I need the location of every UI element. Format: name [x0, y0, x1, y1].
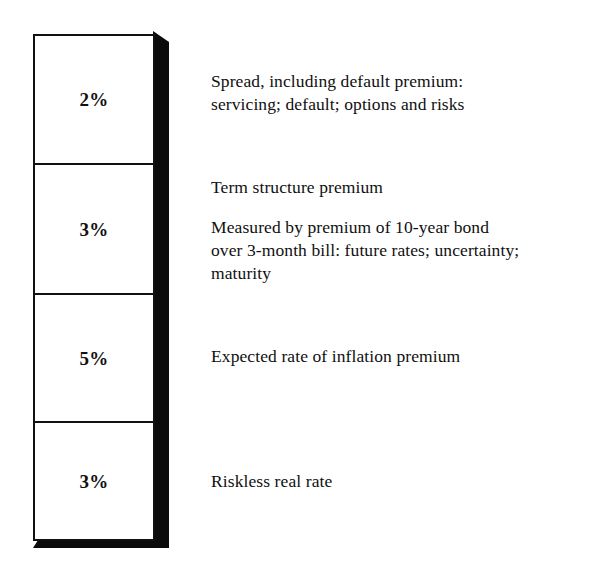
note-spread-line-2: servicing; default; options and risks [211, 93, 596, 116]
note-term-structure-heading: Term structure premium [211, 176, 596, 199]
note-inflation-heading: Expected rate of inflation premium [211, 345, 596, 368]
bond-yield-components-figure: 2% 3% 5% 3% Spread, including default pr… [0, 0, 604, 580]
bar-front-face: 2% 3% 5% 3% [33, 34, 155, 541]
annotation-column: Spread, including default premium: servi… [211, 0, 601, 580]
note-riskless-real-rate: Riskless real rate [211, 470, 596, 493]
bar-segment-spread: 2% [35, 36, 153, 165]
note-spread-line-1: Spread, including default premium: [211, 70, 596, 93]
bar-segment-riskless-real-rate: 3% [35, 423, 153, 539]
bar-segment-value-spread: 2% [79, 90, 108, 109]
note-riskless-heading: Riskless real rate [211, 470, 596, 493]
bar-segment-value-inflation: 5% [79, 349, 108, 368]
bar-3d-side-face [153, 31, 169, 540]
bar-segment-inflation: 5% [35, 295, 153, 423]
note-spread: Spread, including default premium: servi… [211, 70, 596, 116]
stacked-bar-chart: 2% 3% 5% 3% [33, 31, 170, 555]
note-term-structure: Term structure premium Measured by premi… [211, 176, 596, 285]
note-term-structure-line-3: maturity [211, 262, 596, 285]
bar-segment-value-term-structure: 3% [79, 220, 108, 239]
note-inflation: Expected rate of inflation premium [211, 345, 596, 368]
note-term-structure-line-1: Measured by premium of 10-year bond [211, 216, 596, 239]
bar-segment-term-structure: 3% [35, 165, 153, 295]
bar-segment-value-riskless-real-rate: 3% [79, 472, 108, 491]
note-term-structure-line-2: over 3-month bill: future rates; uncerta… [211, 239, 596, 262]
